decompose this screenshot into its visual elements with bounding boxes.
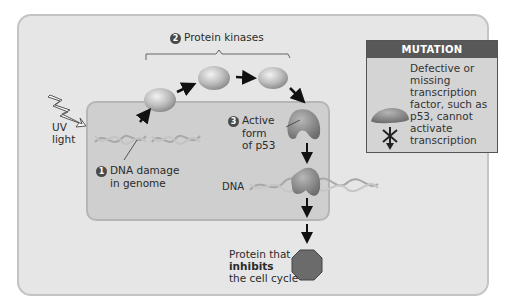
kinase-1-icon [144,88,176,112]
dna-label: DNA [222,181,244,193]
uv-light-label: UV light [52,121,75,145]
defective-p53-icon [371,108,409,123]
blocked-arrow-icon [383,127,397,150]
kinase-bracket [146,50,290,60]
kinase-3-icon [258,67,288,89]
step-2-number: 2 [170,33,181,44]
mutation-box: MUTATION Defective or missing transcript… [366,40,498,153]
step-1-number: 1 [96,166,107,177]
step-3-label: 3Active form of p53 [228,114,275,151]
step-3-number: 3 [228,116,239,127]
arrow-icon [140,112,148,122]
step-1-label: 1DNA damage in genome [96,164,179,189]
arrow-icon [290,88,302,100]
output-label: Protein that inhibits the cell cycle [229,248,298,284]
mutation-description: Defective or missing transcription facto… [410,62,487,146]
arrow-icon [236,77,252,78]
step-2-label: 2Protein kinases [170,31,264,44]
arrow-icon [177,85,192,92]
bound-p53-icon [291,168,320,196]
dna-genome-icon [95,136,200,144]
kinase-2-icon [198,66,230,90]
active-p53-icon [287,109,320,139]
